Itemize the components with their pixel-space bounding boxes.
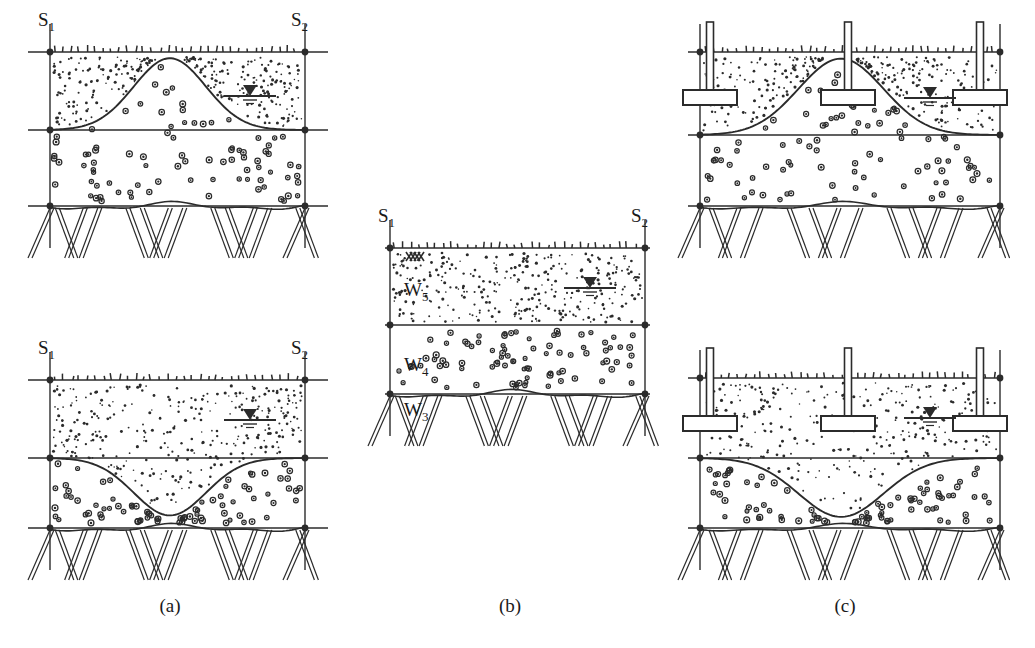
soil-stipple-fine [262,89,265,92]
soil-stipple-coarse-core [85,153,87,155]
soil-stipple-fine [888,444,891,447]
ground-tick [73,376,74,380]
soil-stipple-fine [216,430,219,433]
soil-stipple-fine [92,439,95,442]
soil-stipple-fine [474,291,476,293]
soil-stipple-fine [887,387,889,389]
soil-stipple-fine [66,103,68,105]
soil-stipple-coarse-core [728,470,730,472]
soil-stipple-fine [261,64,263,66]
soil-stipple-fine [599,289,602,292]
ground-tick [727,49,728,52]
soil-stipple-coarse-core [988,502,990,504]
soil-stipple-fine [223,62,226,65]
soil-stipple-fine [943,443,946,446]
soil-stipple-fine [474,269,477,272]
soil-stipple-fine [242,452,244,454]
soil-stipple-coarse-core [974,473,976,475]
soil-stipple-fine [185,56,187,58]
soil-stipple-fine [289,82,292,85]
soil-stipple-fine [814,57,816,59]
soil-stipple-fine [297,97,299,99]
soil-stipple-fine [257,115,260,118]
soil-stipple-fine [763,409,765,411]
soil-stipple-fine [256,79,258,81]
soil-stipple-fine [763,430,765,432]
soil-stipple-coarse-core [867,125,869,127]
soil-stipple-fine [177,455,179,457]
ground-tick [215,375,216,380]
soil-stipple-coarse-core [631,382,633,384]
soil-stipple-coarse-core [282,136,284,138]
soil-stipple-coarse-core [101,200,103,202]
soil-stipple-fine [287,398,289,400]
soil-stipple-fine [892,67,894,69]
soil-stipple-fine [75,396,77,398]
soil-stipple-coarse-core [880,159,882,161]
ground-tick [161,48,162,52]
soil-stipple-fine [59,430,61,432]
soil-stipple-coarse-core [941,193,943,195]
soil-stipple-fine [54,444,57,447]
soil-stipple-fine [991,65,994,68]
soil-stipple-fine [703,123,706,126]
soil-stipple-fine [115,472,118,475]
soil-stipple-coarse-core [475,384,477,386]
soil-stipple-fine [758,88,761,91]
soil-stipple-fine [763,399,766,402]
soil-stipple-coarse-core [58,519,60,521]
soil-stipple-fine [445,291,447,293]
soil-stipple-coarse-core [446,387,448,389]
soil-stipple-fine [92,457,94,459]
soil-stipple-fine [598,282,601,285]
ground-tick [890,47,891,52]
soil-stipple-fine [236,395,238,397]
soil-stipple-fine [139,384,142,387]
soil-stipple-fine [933,58,935,60]
soil-stipple-fine [919,396,921,398]
soil-stipple-coarse-core [553,334,555,336]
soil-stipple-coarse-core [854,162,856,164]
footing-column [707,348,714,416]
soil-stipple-fine [495,321,497,323]
soil-stipple-coarse-core [248,488,250,490]
soil-stipple-fine [177,410,179,412]
soil-stipple-fine [790,476,793,479]
soil-stipple-fine [219,81,222,84]
soil-stipple-coarse-core [208,159,210,161]
soil-stipple-fine [723,449,725,451]
soil-stipple-fine [80,57,82,59]
ground-tick [191,46,192,52]
soil-stipple-fine [86,423,89,426]
soil-stipple-fine [750,386,753,389]
soil-stipple-coarse-core [853,131,855,133]
soil-stipple-coarse-core [166,132,168,134]
footing-pad [953,90,1007,105]
soil-stipple-fine [921,426,924,429]
soil-stipple-fine [730,401,733,404]
soil-stipple-fine [178,401,180,403]
soil-stipple-coarse-core [258,166,260,168]
soil-stipple-fine [887,431,889,433]
soil-stipple-fine [946,102,948,104]
soil-stipple-fine [95,434,98,437]
soil-stipple-coarse-core [501,352,503,354]
soil-stipple-coarse-core [524,358,526,360]
soil-stipple-fine [842,383,844,385]
soil-stipple-coarse-core [966,159,968,161]
soil-stipple-fine [234,392,237,395]
soil-stipple-fine [241,409,244,412]
soil-stipple-fine [163,433,165,435]
soil-stipple-fine [779,63,781,65]
soil-stipple-fine [941,110,943,112]
soil-stipple-coarse-core [102,481,104,483]
soil-stipple-fine [945,73,947,75]
soil-stipple-coarse-core [972,178,974,180]
soil-stipple-fine [750,120,753,123]
soil-stipple-coarse-core [528,368,530,370]
soil-stipple-fine [918,464,920,466]
soil-stipple-fine [278,451,281,454]
soil-stipple-fine [298,440,301,443]
soil-stipple-fine [730,62,732,64]
soil-stipple-fine [280,80,282,82]
